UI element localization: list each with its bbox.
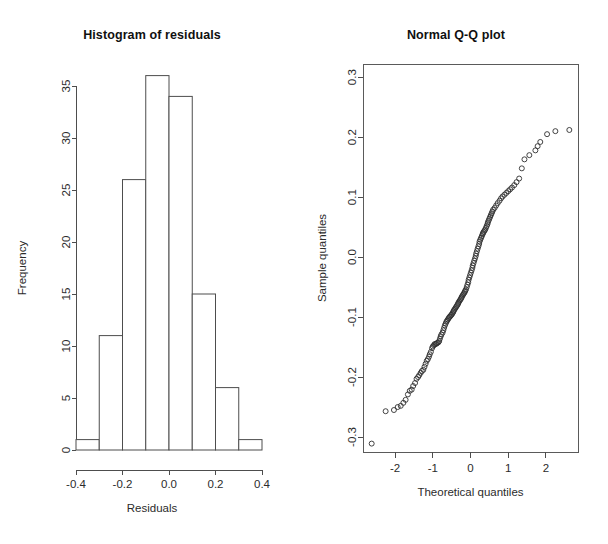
- histogram-y-tick-label: 30: [60, 132, 72, 145]
- histogram-y-tick-label: 20: [60, 236, 72, 249]
- qqplot-y-tick-label: 0.1: [346, 189, 358, 205]
- qqplot-point: [423, 361, 428, 366]
- histogram-xlabel: Residuals: [127, 502, 178, 514]
- qqplot-ylabel: Sample quantiles: [316, 214, 328, 302]
- histogram-bar: [216, 388, 239, 450]
- figure-canvas: Histogram of residuals 05101520253035-0.…: [0, 0, 608, 544]
- qqplot-point: [422, 364, 427, 369]
- qqplot-point: [522, 157, 527, 162]
- histogram-bar: [99, 336, 122, 450]
- histogram-x-tick-label: -0.2: [113, 478, 133, 490]
- qqplot-point: [395, 405, 400, 410]
- qqplot-x-tick-label: 1: [505, 462, 511, 474]
- histogram-x-tick-label: 0.2: [208, 478, 224, 490]
- qqplot-box-frame: [363, 64, 578, 452]
- histogram-y-tick-label: 35: [60, 80, 72, 93]
- qqplot-point: [545, 132, 550, 137]
- histogram-bars: [76, 76, 262, 450]
- qqplot-points: [369, 127, 572, 446]
- histogram-bar: [146, 76, 169, 450]
- histogram-x-axis: -0.4-0.20.00.20.4: [66, 470, 271, 490]
- qqplot-point: [527, 153, 532, 158]
- qqplot-y-tick-label: -0.2: [346, 367, 358, 387]
- qqplot-svg: 0.30.20.10.0-0.1-0.2-0.3-2-1012Theoretic…: [304, 0, 608, 544]
- qqplot-point: [553, 129, 558, 134]
- qqplot-y-tick-label: -0.1: [346, 307, 358, 327]
- qqplot-y-tick-label: 0.3: [346, 69, 358, 85]
- histogram-y-tick-label: 0: [60, 447, 72, 453]
- histogram-bar: [76, 440, 99, 450]
- histogram-x-tick-label: 0.4: [254, 478, 271, 490]
- qqplot-x-tick-label: -2: [390, 462, 400, 474]
- histogram-bar: [169, 96, 192, 450]
- qqplot-point: [567, 127, 572, 132]
- qqplot-x-tick-label: -1: [428, 462, 438, 474]
- histogram-y-tick-label: 25: [60, 184, 72, 197]
- qqplot-point: [369, 441, 374, 446]
- histogram-bar: [123, 180, 146, 450]
- panel-qqplot: Normal Q-Q plot 0.30.20.10.0-0.1-0.2-0.3…: [304, 0, 608, 544]
- qqplot-point: [538, 139, 543, 144]
- qqplot-x-tick-label: 0: [467, 462, 473, 474]
- qqplot-y-tick-label: 0.2: [346, 129, 358, 145]
- histogram-bar: [192, 294, 215, 450]
- qqplot-x-axis: -2-1012: [390, 452, 549, 474]
- histogram-axes: 05101520253035: [60, 80, 76, 454]
- qqplot-point: [517, 176, 522, 181]
- qqplot-xlabel: Theoretical quantiles: [417, 486, 523, 498]
- qqplot-point: [519, 166, 524, 171]
- histogram-y-tick-label: 15: [60, 288, 72, 301]
- qqplot-point: [383, 409, 388, 414]
- histogram-y-tick-label: 10: [60, 340, 72, 353]
- histogram-ylabel: Frequency: [16, 241, 28, 296]
- histogram-svg: 05101520253035-0.4-0.20.00.20.4Residuals…: [0, 0, 304, 544]
- qqplot-y-tick-label: 0.0: [346, 249, 358, 265]
- histogram-y-tick-label: 5: [60, 395, 72, 401]
- qqplot-x-tick-label: 2: [543, 462, 549, 474]
- panel-histogram: Histogram of residuals 05101520253035-0.…: [0, 0, 304, 544]
- histogram-x-tick-label: 0.0: [161, 478, 177, 490]
- qqplot-y-tick-label: -0.3: [346, 427, 358, 447]
- histogram-bar: [239, 440, 262, 450]
- histogram-x-tick-label: -0.4: [66, 478, 86, 490]
- qqplot-y-axis: 0.30.20.10.0-0.1-0.2-0.3: [346, 69, 363, 447]
